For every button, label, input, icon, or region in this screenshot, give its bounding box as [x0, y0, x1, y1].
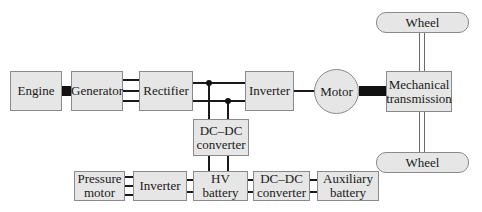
aux-label-line2: battery — [330, 186, 366, 200]
hv-battery-block: HV battery — [193, 171, 248, 201]
dcdc-converter-middle-block: DC–DC converter — [193, 119, 249, 156]
hv-battery-label: HV battery — [194, 172, 247, 200]
pressure-label-line2: motor — [84, 186, 115, 200]
mech-label-line2: transmission — [386, 92, 452, 106]
pm-inv-line-1 — [125, 176, 133, 178]
wheel-bottom-label: Wheel — [406, 156, 440, 170]
axle-bottom-left — [419, 112, 420, 153]
dc-bus-negative — [193, 100, 245, 102]
gen-rect-line-2 — [123, 90, 139, 92]
inverter-main-label: Inverter — [249, 84, 290, 98]
generator-label: Generator — [71, 84, 123, 98]
engine-block: Engine — [10, 71, 62, 111]
dc-bus-positive — [193, 82, 245, 84]
inverter-aux-block: Inverter — [133, 171, 187, 201]
pm-inv-line-2 — [125, 185, 133, 187]
engine-generator-shaft — [62, 86, 71, 96]
dc-bus-tap-positive — [208, 83, 210, 119]
inverter-aux-label: Inverter — [139, 179, 180, 193]
mech-label-line1: Mechanical — [389, 78, 450, 92]
axle-bottom-right — [424, 112, 425, 153]
wheel-top-label: Wheel — [406, 16, 440, 30]
axle-top-right — [424, 32, 425, 71]
wheel-bottom-block: Wheel — [376, 152, 469, 173]
generator-block: Generator — [71, 71, 123, 111]
auxiliary-battery-block: Auxiliary battery — [317, 171, 379, 201]
axle-top-left — [419, 32, 420, 71]
dcdc-hv-line-1 — [208, 156, 210, 171]
aux-label-line1: Auxiliary — [323, 172, 373, 186]
gen-rect-line-3 — [123, 100, 139, 102]
dcdc-low-label-line1: DC–DC — [260, 172, 303, 186]
rectifier-label: Rectifier — [143, 84, 188, 98]
engine-label: Engine — [18, 84, 55, 98]
motor-block: Motor — [314, 69, 359, 114]
dcdc-converter-low-block: DC–DC converter — [253, 171, 310, 201]
mechanical-transmission-block: Mechanical transmission — [386, 71, 452, 112]
rectifier-block: Rectifier — [139, 71, 193, 111]
motor-label: Motor — [320, 85, 353, 99]
inverter-motor-line — [294, 90, 315, 92]
gen-rect-line-1 — [123, 79, 139, 81]
dcdc-aux-line-1 — [310, 179, 317, 181]
dcdc-low-label-line2: converter — [257, 186, 306, 200]
inverter-main-block: Inverter — [245, 71, 294, 111]
junction-dot-positive — [206, 80, 212, 86]
pressure-motor-block: Pressure motor — [74, 171, 125, 201]
dcdc-aux-line-2 — [310, 191, 317, 193]
pm-inv-line-3 — [125, 194, 133, 196]
wheel-top-block: Wheel — [376, 12, 469, 33]
dcdc-mid-label-line2: converter — [196, 138, 245, 152]
pressure-label-line1: Pressure — [77, 172, 121, 186]
dcdc-mid-label-line1: DC–DC — [200, 124, 243, 138]
dcdc-hv-line-2 — [227, 156, 229, 171]
motor-transmission-shaft — [359, 86, 386, 96]
junction-dot-negative — [225, 98, 231, 104]
